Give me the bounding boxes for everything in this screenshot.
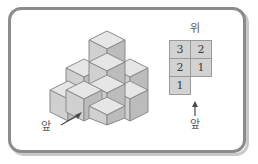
grid-cell-r1c0[interactable]: 2 xyxy=(169,58,191,77)
table-row: 3 2 xyxy=(169,40,211,58)
top-view-front-label: 앞 xyxy=(169,118,221,131)
iso-front-arrow-icon xyxy=(60,110,86,130)
grid-cell-r1c1[interactable]: 1 xyxy=(190,58,212,77)
top-view-top-label: 위 xyxy=(169,22,221,35)
grid-cell-r0c1[interactable]: 2 xyxy=(190,40,212,59)
figure-canvas: 앞 위 3 2 2 1 1 앞 xyxy=(0,0,258,164)
top-view-grid: 3 2 2 1 1 xyxy=(169,40,211,94)
grid-cell-r0c0[interactable]: 3 xyxy=(169,40,191,59)
grid-cell-r2c1-empty xyxy=(190,76,212,95)
top-view-front-arrow-icon xyxy=(190,101,200,117)
top-view-panel: 위 3 2 2 1 1 앞 xyxy=(163,22,223,140)
grid-cell-r2c0[interactable]: 1 xyxy=(169,76,191,95)
iso-front-label: 앞 xyxy=(41,120,51,133)
table-row: 1 xyxy=(169,76,211,94)
table-row: 2 1 xyxy=(169,58,211,76)
